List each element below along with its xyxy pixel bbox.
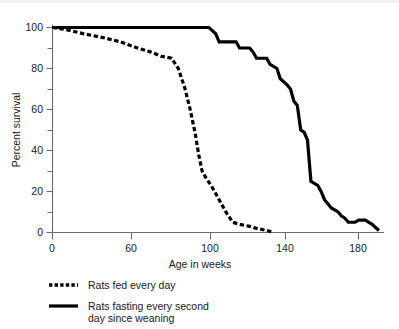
x-tick-label-140: 140	[276, 242, 294, 254]
chart-canvas: 100 80 60 40 20 0 Percent survival 0 60 …	[0, 0, 399, 329]
y-tick-label-60: 60	[31, 103, 43, 115]
y-axis-title: Percent survival	[10, 93, 22, 168]
x-axis-title: Age in weeks	[169, 258, 231, 270]
survival-curve-figure: 100 80 60 40 20 0 Percent survival 0 60 …	[0, 0, 399, 329]
x-tick-label-0: 0	[49, 242, 55, 254]
y-tick-label-20: 20	[31, 185, 43, 197]
x-tick-label-180: 180	[349, 242, 367, 254]
x-tick-label-60: 60	[125, 242, 137, 254]
y-tick-label-0: 0	[37, 226, 43, 238]
chart-legend: Rats fed every day Rats fasting every se…	[49, 279, 209, 324]
x-tick-label-100: 100	[201, 242, 219, 254]
y-tick-label-80: 80	[31, 62, 43, 74]
y-tick-label-100: 100	[25, 21, 43, 33]
series-line-fasting	[53, 28, 379, 231]
legend-label-fed-daily: Rats fed every day	[88, 279, 176, 291]
y-axis-ticks	[47, 28, 53, 233]
top-divider	[0, 0, 399, 3]
y-tick-label-40: 40	[31, 144, 43, 156]
x-axis-ticks	[53, 233, 359, 240]
legend-label-fasting-line1: Rats fasting every second	[88, 300, 209, 312]
legend-label-fasting-line2: day since weaning	[88, 312, 175, 324]
series-line-fed-daily	[53, 28, 274, 233]
